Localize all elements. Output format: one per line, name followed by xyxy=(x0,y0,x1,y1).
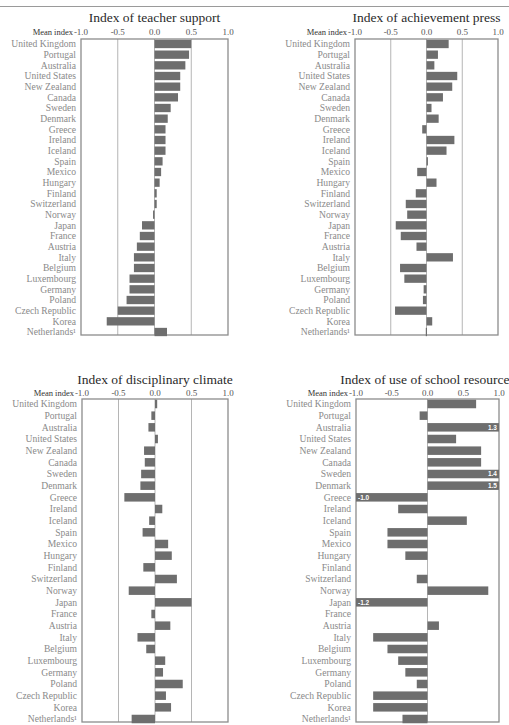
category-label: Norway xyxy=(320,585,351,596)
category-label: Ireland xyxy=(324,503,351,514)
bar xyxy=(402,715,427,724)
x-tick-label: -1.0 xyxy=(349,388,364,398)
category-label: Greece xyxy=(324,492,351,503)
chart-title: Index of use of school resources xyxy=(340,372,509,387)
x-tick-label: -0.5 xyxy=(385,388,400,398)
category-label: Sweden xyxy=(321,468,352,479)
bar-value-label: -1.2 xyxy=(358,599,370,606)
category-label: Australia xyxy=(316,422,352,433)
category-label: Belgium xyxy=(318,643,352,654)
x-tick-label: 0.5 xyxy=(458,388,470,398)
category-label: Switzerland xyxy=(305,573,351,584)
category-label: Iceland xyxy=(323,515,351,526)
bar-value-label: 1.3 xyxy=(488,424,497,431)
category-label: Czech Republic xyxy=(290,690,351,701)
bar xyxy=(387,645,427,654)
category-label: United Kingdom xyxy=(286,398,351,409)
x-axis-label: Mean index xyxy=(308,388,349,398)
bar-value-label: -1.0 xyxy=(358,494,370,501)
bar-value-label: 1.4 xyxy=(488,470,497,477)
category-label: Italy xyxy=(333,632,351,643)
bar xyxy=(373,691,427,700)
category-label: Canada xyxy=(322,457,352,468)
x-tick-label: 0.0 xyxy=(422,388,434,398)
bar xyxy=(428,621,439,630)
bar xyxy=(417,575,428,584)
category-label: Poland xyxy=(324,678,351,689)
category-label: Finland xyxy=(322,562,352,573)
bar xyxy=(428,446,482,455)
category-label: Portugal xyxy=(318,410,351,421)
bar xyxy=(428,586,489,595)
category-label: Austria xyxy=(323,620,352,631)
bar-value-label: 1.5 xyxy=(488,482,497,489)
bar xyxy=(373,703,427,712)
bar xyxy=(428,435,457,444)
bar xyxy=(428,400,477,409)
bar xyxy=(387,540,427,549)
bar xyxy=(398,505,427,514)
bar xyxy=(420,411,428,420)
bar xyxy=(417,680,428,689)
category-label: Korea xyxy=(328,702,352,713)
bar xyxy=(428,516,467,525)
bar xyxy=(405,551,427,560)
category-label: Japan xyxy=(329,597,351,608)
bar xyxy=(387,528,427,537)
bar xyxy=(373,633,427,642)
category-label: United States xyxy=(300,433,352,444)
category-label: Spain xyxy=(329,527,351,538)
chart-svg: Index of use of school resourcesMean ind… xyxy=(0,0,509,725)
category-label: Netherlands¹ xyxy=(302,713,351,724)
bar xyxy=(398,656,427,665)
category-label: France xyxy=(325,608,351,619)
category-label: Germany xyxy=(315,667,351,678)
category-label: Luxembourg xyxy=(302,655,352,666)
category-label: Denmark xyxy=(315,480,351,491)
bar xyxy=(428,458,482,467)
category-label: Hungary xyxy=(317,550,351,561)
bar xyxy=(405,668,427,677)
x-tick-label: 1.0 xyxy=(493,388,505,398)
category-label: Mexico xyxy=(322,538,352,549)
category-label: New Zealand xyxy=(300,445,352,456)
